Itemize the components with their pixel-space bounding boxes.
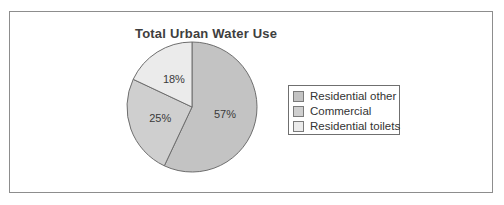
legend: Residential otherCommercialResidential t… [288, 85, 400, 135]
legend-label: Residential toilets [310, 121, 400, 133]
legend-item: Commercial [293, 104, 399, 119]
legend-item: Residential other [293, 89, 399, 104]
legend-swatch [293, 106, 304, 117]
legend-swatch [293, 91, 304, 102]
legend-label: Commercial [310, 106, 371, 118]
legend-item: Residential toilets [293, 119, 399, 134]
figure: Total Urban Water Use 57%25%18% Resident… [0, 0, 504, 205]
pie-slice-label: 18% [163, 73, 185, 85]
pie-slice-label: 57% [214, 108, 236, 120]
pie-slice-label: 25% [149, 112, 171, 124]
legend-label: Residential other [310, 91, 396, 103]
legend-swatch [293, 121, 304, 132]
pie-chart: 57%25%18% [0, 0, 504, 205]
